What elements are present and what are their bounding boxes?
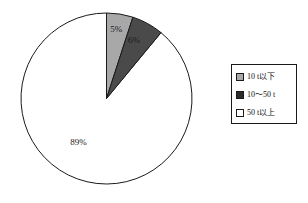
legend-swatch-50t-ijou xyxy=(236,109,244,117)
legend-label-10t-ika: 10 t以下 xyxy=(247,73,275,81)
legend-label-50t-ijou: 50 t以上 xyxy=(247,109,275,117)
legend-swatch-10t-ika xyxy=(236,73,244,81)
legend-item-50t-ijou: 50 t以上 xyxy=(236,104,296,122)
pie-label-10-50t: 6% xyxy=(128,35,141,45)
legend-item-10-50t: 10～50 t xyxy=(236,86,296,104)
chart-legend: 10 t以下 10～50 t 50 t以上 xyxy=(231,64,297,124)
pie-label-50t-ijou: 89% xyxy=(70,137,87,147)
pie-chart-figure: 5% 6% 89% 10 t以下 10～50 t 50 t以上 xyxy=(0,0,308,203)
pie-label-10t-ika: 5% xyxy=(110,24,123,34)
legend-swatch-10-50t xyxy=(236,91,244,99)
legend-label-10-50t: 10～50 t xyxy=(247,91,275,99)
legend-item-10t-ika: 10 t以下 xyxy=(236,68,296,86)
